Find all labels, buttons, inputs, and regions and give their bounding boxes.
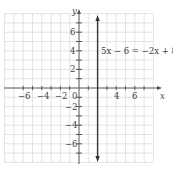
x-tick-label: −6: [18, 91, 31, 101]
x-axis-arrow-icon: [157, 86, 162, 90]
y-tick-label: 4: [70, 46, 75, 56]
x-tick-label: −2: [55, 91, 68, 101]
origin-label: 0: [72, 91, 77, 101]
y-tick-label: 6: [70, 27, 75, 37]
graph: y x 0 −6 −4 −2 4 6 6 4 2 −2 −4 −6 5x − 6…: [0, 0, 173, 173]
x-axis-label: x: [160, 91, 165, 101]
y-tick-label: 2: [70, 64, 75, 74]
line-down-arrow-icon: [95, 156, 99, 162]
y-tick-label: −2: [65, 102, 78, 112]
y-axis-label: y: [71, 6, 77, 16]
equation-label: 5x − 6 = −2x + 8: [101, 46, 173, 56]
y-tick-label: −4: [65, 120, 78, 130]
x-tick-label: −4: [37, 91, 50, 101]
line-up-arrow-icon: [95, 15, 99, 21]
axes: [4, 11, 160, 164]
y-axis-arrow-icon: [77, 9, 81, 14]
y-tick-label: −6: [65, 139, 78, 149]
x-tick-label: 4: [114, 91, 119, 101]
x-tick-label: 6: [132, 91, 137, 101]
